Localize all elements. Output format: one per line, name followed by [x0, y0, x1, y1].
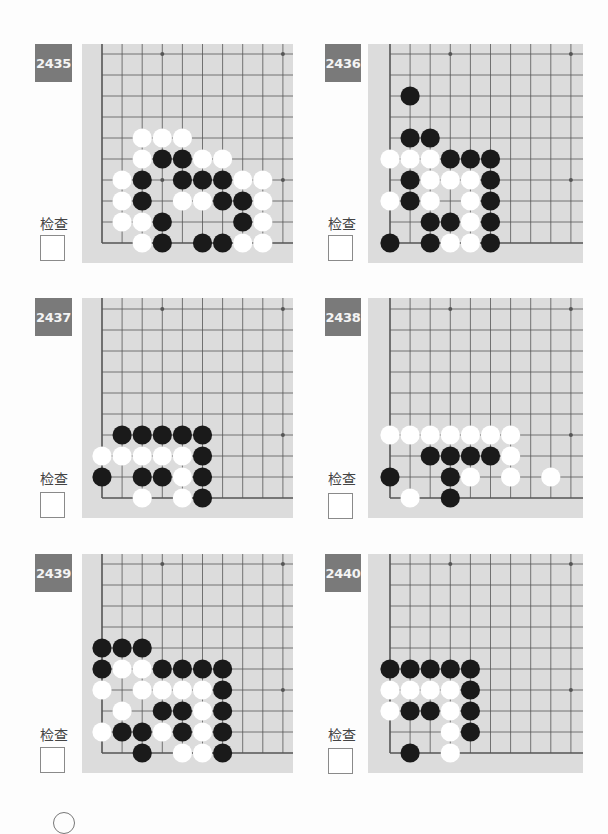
white-stone [153, 128, 172, 147]
white-stone [461, 233, 480, 252]
star-point [281, 688, 285, 692]
black-stone [421, 659, 440, 678]
white-stone [441, 425, 460, 444]
black-stone [380, 467, 399, 486]
black-stone [153, 659, 172, 678]
white-stone [501, 446, 520, 465]
black-stone [461, 680, 480, 699]
white-stone [380, 425, 399, 444]
white-stone [380, 191, 399, 210]
check-label: 检查 [40, 213, 70, 233]
check-label: 检查 [328, 213, 358, 233]
problem-number-badge: 2439 [35, 554, 72, 592]
black-stone [213, 659, 232, 678]
black-stone [233, 212, 252, 231]
check-checkbox[interactable] [328, 493, 353, 519]
black-stone [461, 149, 480, 168]
problem-number-badge: 2437 [35, 298, 72, 336]
white-stone [173, 467, 192, 486]
black-stone [461, 722, 480, 741]
check-checkbox[interactable] [40, 235, 65, 261]
check-checkbox[interactable] [328, 235, 353, 261]
star-point [281, 562, 285, 566]
white-stone [421, 425, 440, 444]
black-stone [193, 467, 212, 486]
check-checkbox[interactable] [40, 492, 65, 518]
white-stone [113, 446, 132, 465]
white-stone [173, 488, 192, 507]
black-stone [401, 743, 420, 762]
black-stone [213, 680, 232, 699]
board-grid [368, 298, 583, 518]
black-stone [173, 659, 192, 678]
black-stone [401, 86, 420, 105]
black-stone [133, 638, 152, 657]
star-point [569, 307, 573, 311]
board-grid [82, 44, 293, 263]
white-stone [193, 722, 212, 741]
black-stone [173, 170, 192, 189]
black-stone [481, 212, 500, 231]
star-point [569, 178, 573, 182]
check-label: 检查 [328, 468, 358, 488]
go-board [82, 554, 293, 773]
white-stone [193, 149, 212, 168]
white-stone [173, 743, 192, 762]
black-stone [441, 212, 460, 231]
white-stone [173, 446, 192, 465]
problem-number-badge: 2438 [325, 298, 361, 336]
white-stone [421, 170, 440, 189]
black-stone [92, 467, 111, 486]
white-stone [133, 212, 152, 231]
star-point [448, 562, 452, 566]
black-stone [441, 488, 460, 507]
white-stone [421, 680, 440, 699]
black-stone [193, 233, 212, 252]
white-stone [213, 149, 232, 168]
white-stone [133, 680, 152, 699]
black-stone [213, 722, 232, 741]
black-stone [193, 659, 212, 678]
black-stone [401, 191, 420, 210]
black-stone [193, 170, 212, 189]
black-stone [173, 722, 192, 741]
white-stone [461, 170, 480, 189]
star-point [281, 433, 285, 437]
white-stone [233, 170, 252, 189]
white-stone [92, 446, 111, 465]
black-stone [153, 149, 172, 168]
white-stone [193, 701, 212, 720]
star-point [569, 562, 573, 566]
black-stone [401, 128, 420, 147]
white-stone [173, 128, 192, 147]
check-checkbox[interactable] [328, 748, 353, 774]
black-stone [461, 701, 480, 720]
black-stone [133, 722, 152, 741]
white-stone [401, 680, 420, 699]
white-stone [380, 149, 399, 168]
black-stone [92, 659, 111, 678]
white-stone [421, 149, 440, 168]
check-checkbox[interactable] [40, 747, 65, 773]
black-stone [133, 170, 152, 189]
go-board [368, 298, 583, 518]
white-stone [421, 191, 440, 210]
star-point [160, 178, 164, 182]
go-board [82, 298, 293, 518]
black-stone [153, 212, 172, 231]
white-stone [133, 149, 152, 168]
check-label: 检查 [328, 724, 358, 744]
check-label: 检查 [40, 468, 70, 488]
black-stone [113, 722, 132, 741]
board-grid [82, 298, 293, 518]
black-stone [401, 170, 420, 189]
black-stone [421, 233, 440, 252]
white-stone [92, 722, 111, 741]
black-stone [441, 659, 460, 678]
star-point [160, 307, 164, 311]
white-stone [481, 425, 500, 444]
white-stone [253, 233, 272, 252]
white-stone [173, 191, 192, 210]
problem-number-badge: 2440 [325, 554, 361, 592]
white-stone [153, 680, 172, 699]
